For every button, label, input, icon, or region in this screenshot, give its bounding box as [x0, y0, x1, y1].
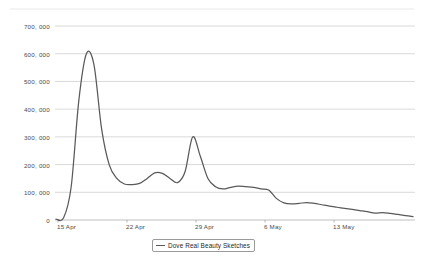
x-axis-tick-label: 15 Apr: [57, 223, 76, 230]
y-axis-tick-label: 300, 000: [8, 133, 50, 140]
legend-label: Dove Real Beauty Sketches: [168, 242, 250, 249]
legend-line-swatch-icon: [156, 245, 165, 246]
y-axis-tick-label: 0: [8, 217, 50, 224]
y-axis-tick-label: 700, 000: [8, 23, 50, 30]
y-axis-tick-label: 600, 000: [8, 50, 50, 57]
line-series-dove-real-beauty-sketches: [56, 51, 413, 220]
x-axis-tick-label: 29 Apr: [195, 223, 214, 230]
x-axis-tick-label: 6 May: [264, 223, 282, 230]
y-axis-tick-label: 500, 000: [8, 78, 50, 85]
chart-container: 700, 000600, 000500, 000400, 000300, 000…: [0, 0, 422, 263]
x-axis-tick-label: 22 Apr: [126, 223, 145, 230]
y-axis-tick-label: 100, 000: [8, 189, 50, 196]
chart-legend[interactable]: Dove Real Beauty Sketches: [152, 239, 255, 252]
gridlines: [55, 26, 415, 220]
y-axis-tick-label: 200, 000: [8, 161, 50, 168]
x-axis-tick-label: 13 May: [333, 223, 355, 230]
y-axis-tick-label: 400, 000: [8, 106, 50, 113]
